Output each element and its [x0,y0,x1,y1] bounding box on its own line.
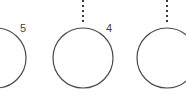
node-5-circle [0,28,26,88]
node-4-circle [53,28,113,88]
tree-diagram [0,0,186,97]
node-5-label: 5 [20,23,26,34]
node-3-circle [137,28,186,88]
node-4-label: 4 [106,23,112,34]
